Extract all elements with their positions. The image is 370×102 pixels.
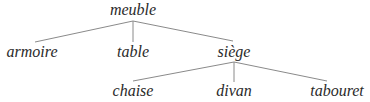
- edge-meuble-siege: [133, 21, 233, 41]
- node-tabouret: tabouret: [310, 83, 364, 99]
- edge-siege-tabouret: [234, 62, 327, 81]
- edge-meuble-armoire: [35, 21, 133, 42]
- node-divan: divan: [216, 83, 252, 99]
- node-armoire: armoire: [7, 44, 58, 60]
- edge-siege-chaise: [133, 62, 234, 81]
- node-meuble: meuble: [110, 2, 156, 18]
- node-chaise: chaise: [113, 83, 154, 99]
- node-siege: siège: [218, 44, 251, 60]
- node-table: table: [117, 44, 149, 60]
